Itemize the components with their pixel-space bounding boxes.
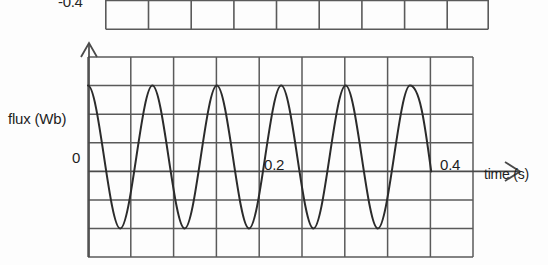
x-axis-label: time (s) (484, 166, 529, 182)
figure-page: -0.4 (0, 0, 548, 265)
y-axis-zero-tick-label: 0 (72, 149, 80, 166)
y-axis-line (81, 43, 97, 257)
x-axis-tick-label-0.4: 0.4 (440, 156, 460, 173)
y-axis-label: flux (Wb) (8, 110, 66, 127)
x-axis-tick-label-0.2: 0.2 (264, 156, 284, 173)
flux-time-svg (0, 0, 548, 265)
flux-time-chart: flux (Wb) 0 0.2 0.4 time (s) (0, 0, 548, 265)
